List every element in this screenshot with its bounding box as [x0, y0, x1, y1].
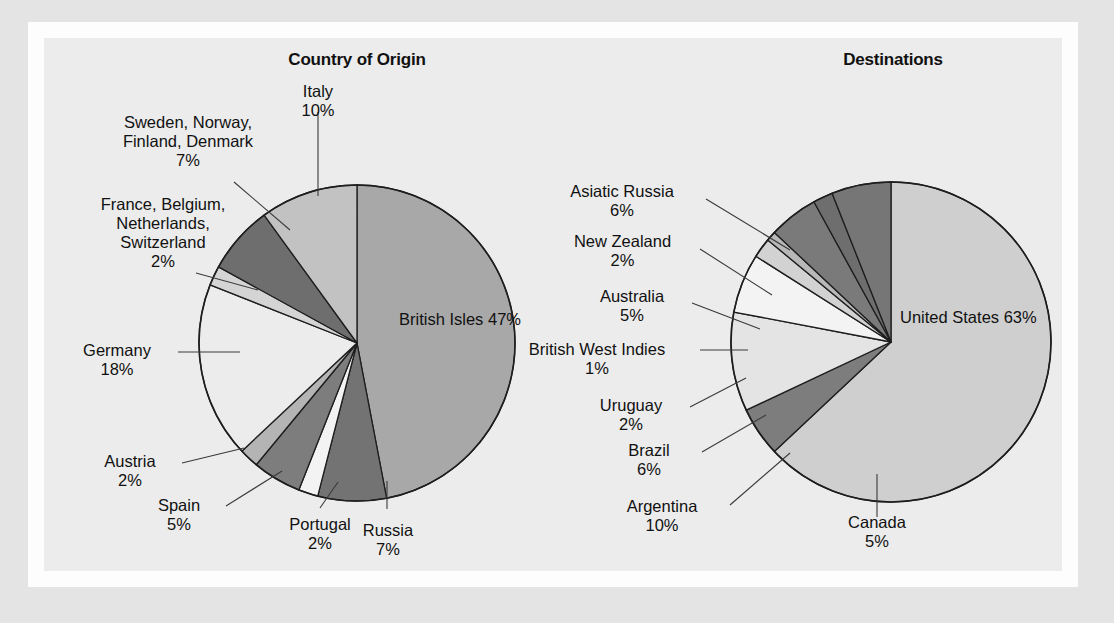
label-british-isles: British Isles 47% — [380, 310, 540, 329]
label-nordic-value: 7% — [68, 151, 308, 170]
label-new-zealand: New Zealand 2% — [545, 232, 700, 270]
label-uruguay-value: 2% — [570, 415, 692, 434]
label-uruguay-name: Uruguay — [600, 396, 662, 414]
label-asiatic-russia: Asiatic Russia 6% — [537, 182, 707, 220]
label-lowlands-name-3: Switzerland — [48, 233, 278, 252]
label-russia: Russia 7% — [343, 521, 433, 559]
label-austria: Austria 2% — [80, 452, 180, 490]
label-germany-value: 18% — [58, 360, 176, 379]
label-british-west-indies-value: 1% — [493, 359, 701, 378]
label-portugal-name: Portugal — [289, 515, 350, 533]
label-argentina-name: Argentina — [627, 497, 698, 515]
label-new-zealand-value: 2% — [545, 251, 700, 270]
label-spain: Spain 5% — [134, 496, 224, 534]
label-lowlands-name-1: France, Belgium, — [101, 195, 226, 213]
label-lowlands-name-2: Netherlands, — [48, 214, 278, 233]
label-australia-name: Australia — [600, 287, 664, 305]
leader-austria — [182, 448, 244, 463]
label-nordic-name-2: Finland, Denmark — [68, 132, 308, 151]
label-asiatic-russia-name: Asiatic Russia — [570, 182, 674, 200]
pie-chart-destinations — [731, 182, 1051, 502]
label-germany-name: Germany — [83, 341, 151, 359]
label-nordic-name-1: Sweden, Norway, — [124, 113, 252, 131]
label-united-states-value: 63% — [1004, 308, 1037, 326]
label-british-isles-name: British Isles — [399, 310, 483, 328]
label-argentina: Argentina 10% — [597, 497, 727, 535]
leader-argentina — [730, 453, 790, 505]
label-asiatic-russia-value: 6% — [537, 201, 707, 220]
label-brazil-name: Brazil — [628, 441, 669, 459]
label-spain-name: Spain — [158, 496, 200, 514]
label-lowlands: France, Belgium, Netherlands, Switzerlan… — [48, 195, 278, 271]
pie-slice-british-isles[interactable] — [357, 185, 515, 498]
label-russia-value: 7% — [343, 540, 433, 559]
label-canada: Canada 5% — [826, 513, 928, 551]
label-austria-name: Austria — [104, 452, 155, 470]
label-uruguay: Uruguay 2% — [570, 396, 692, 434]
label-canada-name: Canada — [848, 513, 906, 531]
label-austria-value: 2% — [80, 471, 180, 490]
label-united-states-name: United States — [900, 308, 999, 326]
label-new-zealand-name: New Zealand — [574, 232, 671, 250]
figure-canvas: Country of Origin Destinations Ita — [0, 0, 1114, 623]
label-italy-name: Italy — [303, 82, 333, 100]
leader-uruguay — [690, 378, 746, 407]
label-argentina-value: 10% — [597, 516, 727, 535]
label-spain-value: 5% — [134, 515, 224, 534]
leader-asiatic-russia — [706, 199, 790, 250]
label-australia: Australia 5% — [568, 287, 696, 325]
label-lowlands-value: 2% — [48, 252, 278, 271]
label-british-west-indies-name: British West Indies — [529, 340, 665, 358]
label-nordic: Sweden, Norway, Finland, Denmark 7% — [68, 113, 308, 170]
label-australia-value: 5% — [568, 306, 696, 325]
label-british-west-indies: British West Indies 1% — [493, 340, 701, 378]
label-british-isles-value: 47% — [488, 310, 521, 328]
leader-brazil — [702, 415, 766, 452]
label-canada-value: 5% — [826, 532, 928, 551]
label-brazil-value: 6% — [598, 460, 700, 479]
label-germany: Germany 18% — [58, 341, 176, 379]
label-brazil: Brazil 6% — [598, 441, 700, 479]
label-united-states: United States 63% — [900, 308, 1080, 327]
label-russia-name: Russia — [363, 521, 413, 539]
leader-spain — [226, 471, 282, 506]
